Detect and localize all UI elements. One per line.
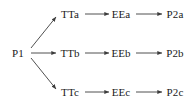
node-label-p1: P1	[12, 47, 24, 59]
node-label-ttb: TTb	[60, 47, 79, 59]
flow-diagram: P1TTaEEaP2aTTbEEbP2bTTcEEcP2c	[0, 0, 196, 107]
edge-arrow-p1-tta	[31, 17, 56, 48]
node-label-p2a: P2a	[167, 8, 184, 20]
node-label-ttc: TTc	[61, 86, 79, 98]
edge-group	[31, 14, 162, 92]
node-label-eea: EEa	[112, 8, 131, 20]
node-label-eeb: EEb	[111, 47, 130, 59]
node-label-p2c: P2c	[167, 86, 184, 98]
node-label-p2b: P2b	[166, 47, 183, 59]
edge-arrow-p1-ttc	[31, 58, 56, 89]
node-label-eec: EEc	[112, 86, 131, 98]
node-label-tta: TTa	[61, 8, 79, 20]
